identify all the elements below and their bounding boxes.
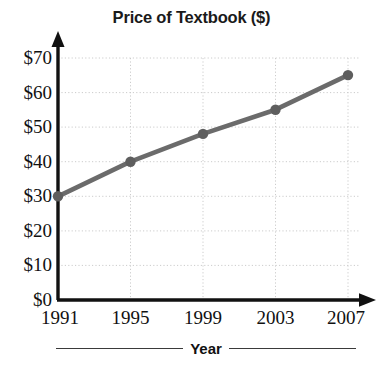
- x-tick-label-1991: 1991: [20, 308, 100, 327]
- x-tick-label-1999: 1999: [163, 308, 243, 327]
- x-tick-label-1995: 1995: [91, 308, 171, 327]
- x-tick-label-2007: 2007: [306, 308, 383, 327]
- x-axis-title-row: Year: [56, 340, 356, 357]
- x-axis-title-rule-left: [56, 348, 183, 349]
- x-axis-title-rule-right: [229, 348, 356, 349]
- x-axis-title: Year: [190, 340, 222, 357]
- chart-figure: Price of Textbook ($): [0, 0, 383, 369]
- x-axis-tick-labels: 1991 1995 1999 2003 2007: [0, 0, 383, 369]
- x-tick-label-2003: 2003: [236, 308, 316, 327]
